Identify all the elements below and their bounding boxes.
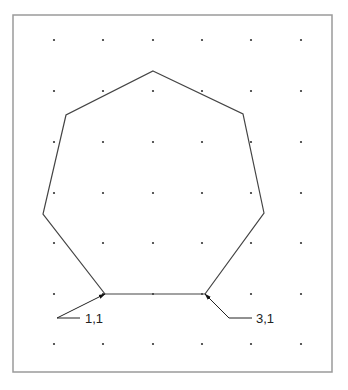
grid-dot xyxy=(300,293,302,295)
grid-dot xyxy=(201,343,203,345)
grid-dot xyxy=(53,343,55,345)
dot-grid xyxy=(53,39,302,345)
grid-dot xyxy=(53,90,55,92)
grid-dot xyxy=(201,90,203,92)
grid-dot xyxy=(53,242,55,244)
grid-dot xyxy=(250,343,252,345)
vertex-labels: 1,13,1 xyxy=(57,294,274,326)
grid-dot xyxy=(300,39,302,41)
grid-dot xyxy=(102,192,104,194)
grid-dot xyxy=(300,192,302,194)
grid-dot xyxy=(201,242,203,244)
grid-dot xyxy=(53,293,55,295)
grid-dot xyxy=(250,39,252,41)
grid-dot xyxy=(300,242,302,244)
vertex-label: 1,1 xyxy=(85,311,103,326)
grid-dot xyxy=(102,242,104,244)
grid-dot xyxy=(300,141,302,143)
grid-dot xyxy=(250,192,252,194)
vertex-label: 3,1 xyxy=(256,311,274,326)
grid-dot xyxy=(152,192,154,194)
grid-dot xyxy=(250,242,252,244)
grid-dot xyxy=(201,141,203,143)
grid-dot xyxy=(102,90,104,92)
grid-dot xyxy=(102,141,104,143)
grid-dot xyxy=(300,90,302,92)
grid-dot xyxy=(152,343,154,345)
grid-dot xyxy=(53,39,55,41)
heptagon-shape xyxy=(43,71,264,294)
grid-dot xyxy=(53,192,55,194)
grid-dot xyxy=(201,192,203,194)
grid-dot xyxy=(53,141,55,143)
grid-dot xyxy=(201,39,203,41)
grid-dot xyxy=(300,343,302,345)
grid-dot xyxy=(152,242,154,244)
grid-dot xyxy=(152,90,154,92)
grid-dot xyxy=(250,293,252,295)
grid-dot xyxy=(102,343,104,345)
grid-dot xyxy=(152,39,154,41)
grid-dot xyxy=(102,39,104,41)
grid-dot xyxy=(250,90,252,92)
grid-dot xyxy=(152,141,154,143)
diagram-canvas: 1,13,1 xyxy=(0,0,348,390)
leader-line xyxy=(205,294,252,318)
grid-dot xyxy=(250,141,252,143)
